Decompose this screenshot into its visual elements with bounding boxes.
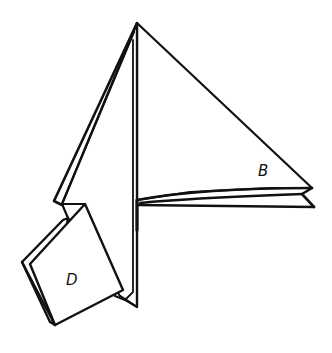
origami-diagram: B D [0,0,332,353]
label-d: D [66,271,78,289]
diagram-svg: B D [0,0,332,353]
label-b: B [258,162,268,180]
flap-b-tip [302,188,314,207]
flap-b-edge-3 [137,205,314,207]
flap-b [137,23,312,200]
